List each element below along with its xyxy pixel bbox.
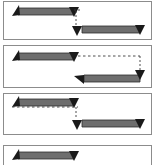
panel-2-horizontal-then-vertical-dashed-connector: [78, 56, 140, 71]
panel-2-upper-left-bar: [12, 50, 79, 62]
panel-1-upper-left-bar: [12, 5, 79, 17]
up-left-triangle-icon: [12, 50, 20, 61]
panel-2: [3, 45, 152, 88]
panel-3: [3, 93, 152, 135]
panel-3-lower-right-bar: [72, 119, 145, 130]
panel-2-lower-right-bar: [74, 70, 145, 84]
down-triangle-icon: [72, 120, 82, 130]
panel-1-lower-right-bar: [72, 25, 145, 36]
panel-3-underline-then-vertical-dashed-connector: [12, 107, 78, 118]
panel-3-graphic: [4, 94, 151, 134]
down-triangle-icon: [72, 26, 82, 36]
panel-1: [3, 1, 152, 40]
figure-container: [0, 0, 158, 165]
panel-4: [3, 145, 152, 165]
panel-3-upper-left-bar: [12, 96, 79, 108]
panel-4-upper-left-bar: [12, 149, 79, 161]
up-left-triangle-icon: [12, 5, 20, 16]
up-left-triangle-icon: [12, 96, 20, 107]
up-left-triangle-icon: [12, 149, 20, 160]
panel-2-graphic: [4, 46, 151, 87]
panel-4-graphic: [4, 146, 151, 165]
up-left-triangle-icon: [74, 75, 84, 84]
panel-1-graphic: [4, 2, 151, 39]
